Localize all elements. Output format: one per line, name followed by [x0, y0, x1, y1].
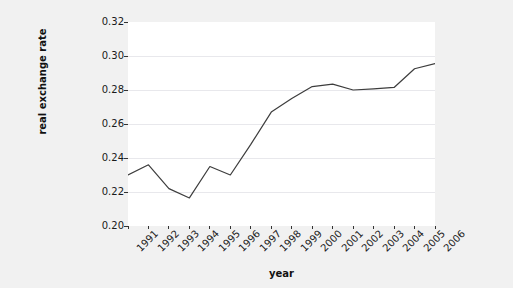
x-tick-mark	[148, 226, 149, 229]
x-tick-mark	[414, 226, 415, 229]
x-tick-label: 2001	[339, 228, 365, 254]
x-tick-mark	[230, 226, 231, 229]
y-tick-mark	[124, 192, 128, 193]
x-tick-mark	[271, 226, 272, 229]
y-tick-label: 0.32	[102, 17, 124, 27]
y-tick-label: 0.20	[102, 221, 124, 231]
y-tick-label: 0.22	[102, 187, 124, 197]
x-tick-label: 1995	[216, 228, 242, 254]
plot-area	[128, 22, 435, 226]
series-polyline	[128, 64, 435, 198]
x-tick-mark	[394, 226, 395, 229]
y-axis-tick-labels: 0.200.220.240.260.280.300.32	[88, 0, 124, 288]
x-tick-label: 2004	[401, 228, 427, 254]
x-tick-mark	[168, 226, 169, 229]
x-tick-mark	[332, 226, 333, 229]
x-tick-label: 1994	[196, 228, 222, 254]
x-tick-label: 1993	[175, 228, 201, 254]
x-axis-tick-labels: 1991199219931994199519961997199819992000…	[128, 228, 435, 268]
x-tick-mark	[250, 226, 251, 229]
x-tick-mark	[128, 226, 129, 229]
y-tick-mark	[124, 124, 128, 125]
x-tick-label: 2003	[380, 228, 406, 254]
y-tick-label: 0.24	[102, 153, 124, 163]
x-tick-label: 1998	[278, 228, 304, 254]
y-tick-mark	[124, 56, 128, 57]
y-tick-label: 0.30	[102, 51, 124, 61]
x-tick-mark	[435, 226, 436, 229]
x-tick-label: 2000	[319, 228, 345, 254]
y-tick-label: 0.26	[102, 119, 124, 129]
x-tick-mark	[209, 226, 210, 229]
y-tick-mark	[124, 90, 128, 91]
y-tick-mark	[124, 22, 128, 23]
x-tick-mark	[353, 226, 354, 229]
x-tick-label: 2006	[441, 228, 467, 254]
x-tick-label: 1992	[155, 228, 181, 254]
y-axis-title: real exchange rate	[37, 27, 48, 137]
data-series-line	[128, 22, 435, 226]
x-tick-label: 1999	[298, 228, 324, 254]
x-tick-label: 2002	[360, 228, 386, 254]
x-tick-mark	[291, 226, 292, 229]
x-tick-mark	[312, 226, 313, 229]
x-tick-label: 1996	[237, 228, 263, 254]
y-tick-label: 0.28	[102, 85, 124, 95]
y-tick-mark	[124, 158, 128, 159]
x-tick-mark	[189, 226, 190, 229]
x-axis-title: year	[128, 268, 435, 279]
chart-figure: 0.200.220.240.260.280.300.32 real exchan…	[0, 0, 513, 288]
x-tick-label: 1997	[257, 228, 283, 254]
x-tick-label: 1991	[134, 228, 160, 254]
x-tick-label: 2005	[421, 228, 447, 254]
x-tick-mark	[373, 226, 374, 229]
